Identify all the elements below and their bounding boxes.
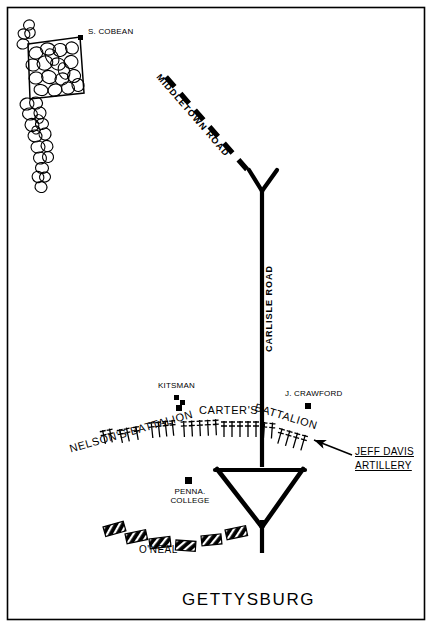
unit-label-carters: CARTER'S [199,404,258,417]
callout-line-2: ARTILLERY [355,459,414,473]
woods-orchard-block [25,40,85,98]
map-border-frame [8,8,425,620]
map-title: GETTYSBURG [182,590,315,610]
place-label-kitsman: KITSMAN [158,381,195,390]
map-graphics [0,0,433,632]
building-marker-j-crawford [305,403,311,409]
road-label-carlisle-road: CARLISLE ROAD [264,265,274,352]
jeff-davis-callout-arrow [314,440,352,455]
unit-label-oneal: O'NEAL [139,544,178,556]
place-label-college: COLLEGE [167,496,213,505]
callout-line-1: JEFF DAVIS [355,445,414,459]
place-label-penna-college: PENNA. COLLEGE [167,487,213,505]
carlisle-road-lower-fork [215,469,305,527]
callout-jeff-davis-artillery: JEFF DAVIS ARTILLERY [355,445,414,472]
place-label-s-cobean: S. COBEAN [88,27,133,36]
place-label-penna: PENNA. [167,487,213,496]
orchard-field-rectangle [28,37,84,99]
tree-line [16,18,55,194]
building-marker-s-cobean [78,35,83,40]
place-label-j-crawford: J. CRAWFORD [285,389,342,398]
carlisle-road-upper-fork [249,170,277,191]
building-marker-kitsman [174,395,185,411]
map-canvas: S. COBEAN MIDDLETOWN ROAD CARLISLE ROAD … [0,0,433,632]
building-marker-penna-college [185,477,192,484]
